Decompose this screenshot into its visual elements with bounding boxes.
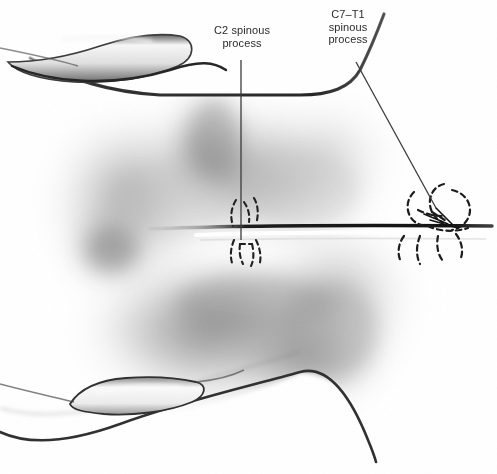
anatomical-figure: C2 spinous process C7–T1 spinous process bbox=[0, 0, 497, 474]
label-c7-t1-spinous-process: C7–T1 spinous process bbox=[312, 8, 384, 46]
illustration-canvas bbox=[0, 0, 497, 474]
paper-grain bbox=[0, 0, 497, 474]
label-c2-spinous-process: C2 spinous process bbox=[196, 24, 288, 49]
